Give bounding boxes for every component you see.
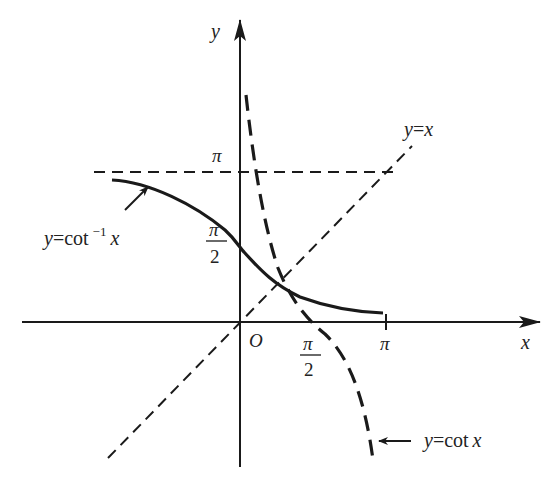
svg-text:π: π	[303, 333, 313, 354]
svg-text:2: 2	[304, 359, 314, 380]
y-axis-label: y	[209, 20, 220, 43]
label-arccot: y=cot−1x	[42, 224, 119, 250]
label-cot: y=cotx	[422, 429, 482, 452]
arccot-callout-arrow	[125, 187, 148, 210]
line-y-equals-x	[108, 146, 412, 458]
svg-text:π: π	[209, 219, 219, 240]
curve-cot	[246, 95, 373, 460]
x-axis-label: x	[520, 331, 530, 353]
graph-canvas: y x O π π 2 π 2 π y=x y=cot−1x y=cotx	[0, 0, 552, 500]
x-tick-pi-label: π	[380, 333, 390, 354]
y-tick-pi-label: π	[212, 145, 222, 166]
graph-figure: y x O π π 2 π 2 π y=x y=cot−1x y=cotx	[0, 0, 552, 500]
x-tick-half-pi-label: π 2	[300, 333, 321, 380]
svg-text:2: 2	[210, 246, 220, 267]
label-y-equals-x: y=x	[402, 118, 433, 141]
y-tick-half-pi-label: π 2	[206, 219, 227, 267]
origin-label: O	[249, 330, 263, 351]
curve-arccot	[112, 180, 383, 313]
